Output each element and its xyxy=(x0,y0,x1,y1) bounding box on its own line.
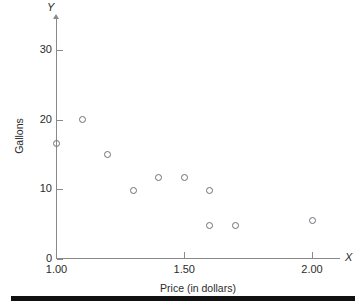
y-axis-tick xyxy=(57,259,63,260)
y-axis-tick-label-wrap: 10 xyxy=(0,183,52,194)
x-axis-tick-label: 1.00 xyxy=(34,263,80,275)
y-axis-title: Gallons xyxy=(13,101,25,171)
x-axis-tick-label: 1.50 xyxy=(161,263,207,275)
data-point xyxy=(104,151,111,158)
y-axis-tick-label-wrap: 0 xyxy=(0,253,52,264)
x-axis-title: Price (in dollars) xyxy=(56,282,340,294)
y-axis-tick xyxy=(57,120,63,121)
data-point xyxy=(309,217,316,224)
y-axis-tick-label-wrap: 20 xyxy=(0,114,52,125)
y-axis-tick-label-wrap: 30 xyxy=(0,44,52,55)
y-axis-tick xyxy=(57,50,63,51)
x-axis-line xyxy=(56,258,340,259)
data-point xyxy=(181,174,188,181)
data-point xyxy=(53,140,60,147)
x-axis-tick-label: 2.00 xyxy=(289,263,335,275)
data-point xyxy=(155,174,162,181)
y-axis-tick-label: 0 xyxy=(26,253,52,264)
data-point xyxy=(206,187,213,194)
data-point xyxy=(79,116,86,123)
y-axis-tick xyxy=(57,189,63,190)
y-axis-tick-label: 20 xyxy=(26,114,52,125)
data-point xyxy=(232,222,239,229)
data-point xyxy=(206,222,213,229)
y-axis-tick-label: 10 xyxy=(26,183,52,194)
y-axis-arrow-icon xyxy=(53,14,59,19)
y-axis-tick-label: 30 xyxy=(26,44,52,55)
y-axis-name: Y xyxy=(47,2,54,13)
scatter-plot-figure: Y X 01020301.001.502.00 Gallons Price (i… xyxy=(0,0,364,305)
x-axis-tick xyxy=(312,252,313,258)
bottom-divider xyxy=(11,296,355,301)
x-axis-name: X xyxy=(345,252,352,263)
x-axis-tick xyxy=(184,252,185,258)
data-point xyxy=(130,187,137,194)
y-axis-line xyxy=(56,18,57,259)
